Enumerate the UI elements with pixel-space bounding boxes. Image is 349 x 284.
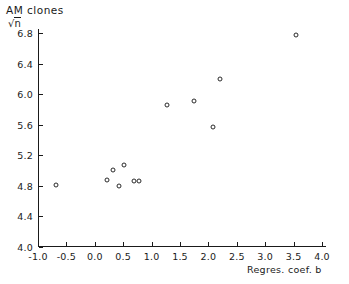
x-axis-label: Regres. coef. b: [247, 264, 322, 275]
x-tick-label: 0.5: [115, 251, 131, 262]
x-tick: [38, 242, 39, 247]
x-tick: [265, 242, 266, 247]
x-tick: [322, 242, 323, 247]
y-tick: [39, 94, 43, 95]
chart-title-am-clones: AM clones: [6, 4, 64, 16]
scatter-point: [137, 179, 142, 184]
x-tick-label: 0.0: [87, 251, 103, 262]
x-tick-label: -1.0: [28, 251, 47, 262]
x-axis-line: [38, 246, 326, 247]
x-tick-label: 3.0: [257, 251, 273, 262]
y-tick-label: 5.2: [17, 150, 33, 161]
scatter-point: [210, 125, 215, 130]
x-tick-label: 1.0: [144, 251, 160, 262]
y-tick: [39, 155, 43, 156]
scatter-point: [293, 33, 298, 38]
x-tick-label: 1.5: [172, 251, 188, 262]
scatter-point: [164, 102, 169, 107]
y-tick-label: 4.4: [17, 211, 33, 222]
y-axis-line: [38, 29, 39, 247]
y-tick: [39, 216, 43, 217]
x-tick-label: -0.5: [57, 251, 76, 262]
scatter-point: [54, 183, 59, 188]
scatter-point: [110, 167, 115, 172]
y-tick: [39, 125, 43, 126]
x-tick: [208, 242, 209, 247]
x-tick: [123, 242, 124, 247]
x-tick: [152, 242, 153, 247]
y-tick-label: 5.6: [17, 119, 33, 130]
y-tick: [39, 247, 43, 248]
y-tick-label: 6.8: [17, 28, 33, 39]
x-tick-label: 4.0: [314, 251, 330, 262]
y-tick-label: 4.8: [17, 180, 33, 191]
y-tick-label: 6.4: [17, 58, 33, 69]
scatter-point: [121, 163, 126, 168]
x-tick-label: 3.5: [286, 251, 302, 262]
x-tick: [294, 242, 295, 247]
x-tick-label: 2.5: [229, 251, 245, 262]
plot-area: 4.04.44.85.25.66.06.46.8 -1.0-0.50.00.51…: [38, 33, 322, 247]
x-tick: [95, 242, 96, 247]
x-tick-label: 2.0: [201, 251, 217, 262]
x-tick: [237, 242, 238, 247]
scatter-point: [117, 183, 122, 188]
y-tick: [39, 33, 43, 34]
y-tick: [39, 64, 43, 65]
x-tick: [180, 242, 181, 247]
y-tick: [39, 186, 43, 187]
y-tick-label: 6.0: [17, 89, 33, 100]
x-tick: [66, 242, 67, 247]
scatter-point: [217, 76, 222, 81]
figure-canvas: AM clones √n 4.04.44.85.25.66.06.46.8 -1…: [0, 0, 349, 284]
scatter-point: [104, 177, 109, 182]
scatter-point: [192, 99, 197, 104]
